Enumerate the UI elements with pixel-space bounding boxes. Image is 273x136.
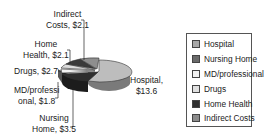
legend-swatch	[192, 70, 200, 78]
legend-swatch	[192, 55, 200, 63]
label-nursing-home: Nursing Home, $3.5	[32, 113, 76, 135]
label-drugs: Drugs, $2.7	[14, 66, 58, 77]
legend-item-nursing-home: Nursing Home	[192, 52, 251, 67]
legend-item-drugs: Drugs	[192, 81, 251, 96]
pie-slices	[61, 58, 132, 82]
label-hospital: Hospital, $13.6	[130, 75, 163, 97]
legend-item-indirect-costs: Indirect Costs	[192, 111, 251, 126]
legend-swatch	[192, 40, 200, 48]
label-md-professional: MD/professi onal, $1.8	[14, 85, 59, 107]
legend-item-home-health: Home Health	[192, 96, 251, 111]
legend-swatch	[192, 114, 200, 122]
label-home-health: Home Health, $2.1	[23, 39, 69, 61]
legend-swatch	[192, 100, 200, 108]
legend-swatch	[192, 85, 200, 93]
chart-legend: Hospital Nursing Home MD/professional Dr…	[186, 33, 252, 127]
legend-item-hospital: Hospital	[192, 37, 251, 52]
legend-item-md-professional: MD/professional	[192, 67, 251, 82]
label-indirect-costs: Indirect Costs, $2.1	[46, 9, 89, 31]
